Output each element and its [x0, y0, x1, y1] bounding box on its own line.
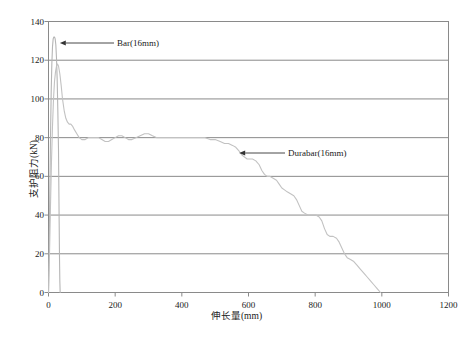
- annotation-label-bar: Bar(16mm): [117, 39, 159, 48]
- chart-plot: [0, 0, 473, 337]
- x-tick-label: 400: [175, 301, 189, 310]
- annotation-label-durabar: Durabar(16mm): [288, 149, 346, 158]
- y-tick-label: 20: [18, 249, 44, 258]
- gridlines: [49, 60, 449, 254]
- y-tick-label: 120: [18, 56, 44, 65]
- x-tick-label: 0: [46, 301, 51, 310]
- x-axis-title: 伸长量(mm): [211, 312, 262, 322]
- y-tick-label: 100: [18, 94, 44, 103]
- x-tick-label: 1200: [440, 301, 458, 310]
- annotation-arrowhead-1: [60, 40, 66, 45]
- x-tick-label: 200: [108, 301, 122, 310]
- x-tick-label: 1000: [373, 301, 391, 310]
- y-axis-title: 支护阻力(kN): [30, 140, 40, 198]
- y-tick-label: 140: [18, 17, 44, 26]
- y-tick-label: 0: [18, 288, 44, 297]
- annotation-arrows: [60, 40, 285, 155]
- y-tick-label: 40: [18, 211, 44, 220]
- series-line-2: [49, 64, 381, 292]
- chart-container: 020406080100120140 020040060080010001200…: [0, 0, 473, 337]
- x-tick-label: 600: [242, 301, 256, 310]
- x-tick-label: 800: [308, 301, 322, 310]
- plot-frame: [49, 22, 449, 293]
